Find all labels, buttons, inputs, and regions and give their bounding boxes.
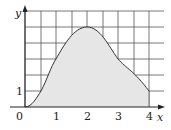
origin-label: 0 bbox=[16, 110, 23, 123]
area-fill bbox=[25, 27, 149, 107]
x-axis-arrow-icon bbox=[158, 105, 165, 110]
x-tick-3: 3 bbox=[115, 110, 122, 123]
x-axis-label: x bbox=[157, 111, 164, 124]
y-axis-label: y bbox=[14, 7, 22, 20]
x-tick-4: 4 bbox=[146, 110, 153, 123]
chart: y x 0 1 1 2 3 4 bbox=[0, 0, 171, 130]
y-tick-1: 1 bbox=[16, 85, 23, 98]
x-tick-1: 1 bbox=[53, 110, 60, 123]
x-tick-2: 2 bbox=[84, 110, 91, 123]
y-axis-arrow-icon bbox=[23, 5, 28, 12]
